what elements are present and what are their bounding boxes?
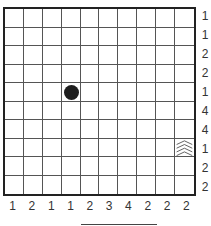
grid-cell[interactable] <box>62 65 81 84</box>
grid-cell[interactable] <box>81 83 100 102</box>
grid-cell[interactable] <box>5 102 24 121</box>
grid-cell[interactable] <box>99 83 118 102</box>
grid-cell[interactable] <box>118 139 137 158</box>
grid-cell[interactable] <box>5 83 24 102</box>
grid-cell[interactable] <box>62 46 81 65</box>
grid-cell[interactable] <box>99 65 118 84</box>
grid-cell[interactable] <box>81 46 100 65</box>
grid-cell[interactable] <box>62 176 81 195</box>
grid-cell[interactable] <box>81 157 100 176</box>
grid-cell[interactable] <box>118 102 137 121</box>
grid-cell[interactable] <box>5 176 24 195</box>
grid-cell[interactable] <box>43 157 62 176</box>
grid-cell[interactable] <box>175 157 194 176</box>
grid-cell[interactable] <box>43 28 62 47</box>
grid-cell[interactable] <box>81 102 100 121</box>
grid-cell[interactable] <box>156 157 175 176</box>
grid-cell[interactable] <box>137 139 156 158</box>
grid-cell[interactable] <box>118 46 137 65</box>
grid-cell[interactable] <box>175 28 194 47</box>
grid-cell[interactable] <box>156 9 175 28</box>
grid-cell[interactable] <box>175 46 194 65</box>
grid-cell[interactable] <box>43 102 62 121</box>
grid-cell[interactable] <box>137 157 156 176</box>
grid-cell[interactable] <box>24 176 43 195</box>
grid-cell[interactable] <box>118 28 137 47</box>
grid-cell[interactable] <box>62 28 81 47</box>
grid-cell[interactable] <box>156 28 175 47</box>
grid-cell[interactable] <box>175 102 194 121</box>
grid-cell[interactable] <box>62 9 81 28</box>
grid-cell[interactable] <box>62 83 81 102</box>
grid-cell[interactable] <box>24 65 43 84</box>
grid-cell[interactable] <box>175 139 194 158</box>
grid-cell[interactable] <box>81 120 100 139</box>
grid-cell[interactable] <box>118 176 137 195</box>
grid-cell[interactable] <box>62 120 81 139</box>
grid-cell[interactable] <box>175 9 194 28</box>
grid-cell[interactable] <box>24 139 43 158</box>
grid-cell[interactable] <box>99 9 118 28</box>
grid-cell[interactable] <box>137 83 156 102</box>
grid-cell[interactable] <box>43 176 62 195</box>
grid-cell[interactable] <box>175 176 194 195</box>
grid-cell[interactable] <box>24 46 43 65</box>
grid-cell[interactable] <box>99 157 118 176</box>
grid-cell[interactable] <box>43 83 62 102</box>
grid-cell[interactable] <box>81 28 100 47</box>
grid-cell[interactable] <box>62 102 81 121</box>
grid-cell[interactable] <box>156 65 175 84</box>
grid-cell[interactable] <box>99 120 118 139</box>
grid-cell[interactable] <box>62 139 81 158</box>
grid-cell[interactable] <box>99 28 118 47</box>
grid-cell[interactable] <box>43 139 62 158</box>
grid-cell[interactable] <box>81 176 100 195</box>
grid-cell[interactable] <box>5 139 24 158</box>
grid-cell[interactable] <box>43 9 62 28</box>
grid-cell[interactable] <box>156 176 175 195</box>
grid-cell[interactable] <box>81 65 100 84</box>
grid-cell[interactable] <box>156 120 175 139</box>
grid-cell[interactable] <box>5 9 24 28</box>
grid-cell[interactable] <box>24 102 43 121</box>
grid-cell[interactable] <box>137 28 156 47</box>
grid-cell[interactable] <box>118 83 137 102</box>
grid-cell[interactable] <box>81 9 100 28</box>
grid-cell[interactable] <box>99 139 118 158</box>
grid-cell[interactable] <box>62 157 81 176</box>
grid-cell[interactable] <box>118 9 137 28</box>
grid-cell[interactable] <box>81 139 100 158</box>
grid-cell[interactable] <box>156 139 175 158</box>
grid-cell[interactable] <box>156 83 175 102</box>
grid-cell[interactable] <box>43 120 62 139</box>
grid-cell[interactable] <box>175 120 194 139</box>
grid-cell[interactable] <box>43 65 62 84</box>
grid-cell[interactable] <box>24 83 43 102</box>
grid-cell[interactable] <box>156 102 175 121</box>
grid-cell[interactable] <box>24 9 43 28</box>
grid-cell[interactable] <box>137 120 156 139</box>
grid-cell[interactable] <box>5 120 24 139</box>
grid-cell[interactable] <box>175 83 194 102</box>
grid-cell[interactable] <box>5 157 24 176</box>
grid-cell[interactable] <box>99 46 118 65</box>
grid-cell[interactable] <box>99 102 118 121</box>
grid-cell[interactable] <box>5 46 24 65</box>
grid-cell[interactable] <box>175 65 194 84</box>
grid-cell[interactable] <box>156 46 175 65</box>
grid-cell[interactable] <box>24 120 43 139</box>
grid-cell[interactable] <box>99 176 118 195</box>
grid-cell[interactable] <box>24 28 43 47</box>
grid-cell[interactable] <box>118 65 137 84</box>
grid-cell[interactable] <box>137 65 156 84</box>
grid-cell[interactable] <box>118 157 137 176</box>
grid-cell[interactable] <box>137 176 156 195</box>
grid-cell[interactable] <box>5 65 24 84</box>
grid-cell[interactable] <box>137 102 156 121</box>
grid-cell[interactable] <box>24 157 43 176</box>
grid-cell[interactable] <box>43 46 62 65</box>
grid-cell[interactable] <box>5 28 24 47</box>
grid-cell[interactable] <box>137 46 156 65</box>
grid-cell[interactable] <box>118 120 137 139</box>
grid-cell[interactable] <box>137 9 156 28</box>
